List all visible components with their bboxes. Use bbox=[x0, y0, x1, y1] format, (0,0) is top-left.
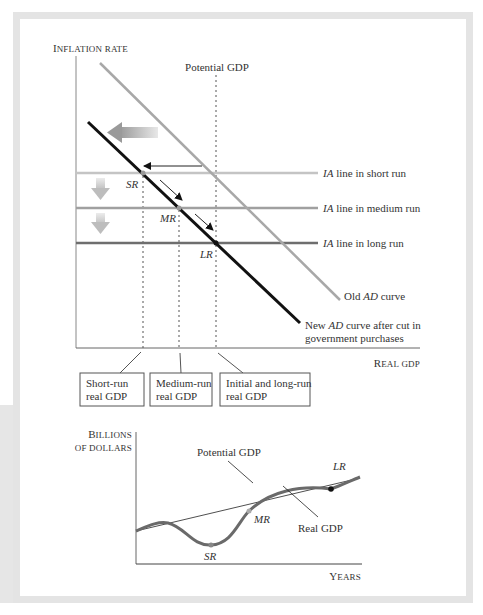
callout-line-mr bbox=[180, 353, 181, 373]
lr-label: LR bbox=[199, 248, 213, 260]
ia-long-label: IA line in long run bbox=[322, 237, 404, 249]
lr-label: LR bbox=[332, 460, 346, 472]
lr-point bbox=[328, 486, 334, 492]
arrow-sr-to-mr-icon bbox=[160, 180, 182, 200]
mr-label: MR bbox=[253, 513, 270, 525]
svg-text:real GDP: real GDP bbox=[226, 390, 267, 402]
potential-gdp-label: Potential GDP bbox=[197, 446, 261, 458]
old-ad-label: Old AD curve bbox=[344, 290, 405, 302]
mr-point bbox=[247, 509, 252, 514]
figure-svg: INFLATION RATE REAL GDP Potential GDP IA… bbox=[0, 0, 483, 615]
sr-point bbox=[141, 171, 146, 176]
x-axis-label: REAL GDP bbox=[374, 357, 420, 369]
ia-short-label: IA line in short run bbox=[322, 167, 407, 179]
svg-text:Initial and long-run: Initial and long-run bbox=[226, 377, 312, 389]
y-axis-label-line1: BILLIONS bbox=[88, 428, 132, 440]
y-axis-label: INFLATION RATE bbox=[53, 42, 128, 54]
down-arrow-icon-2 bbox=[91, 213, 110, 234]
new-ad-label: New AD curve after cut in bbox=[305, 319, 421, 331]
svg-text:Short-run: Short-run bbox=[86, 377, 129, 389]
callout-line-sr bbox=[120, 352, 141, 373]
sr-label: SR bbox=[204, 550, 217, 562]
real-gdp-label: Real GDP bbox=[298, 522, 343, 534]
bottom-chart: BILLIONS OF DOLLARS YEARS Potential GDP … bbox=[75, 428, 362, 582]
shift-left-arrow-icon bbox=[107, 122, 158, 143]
callout-line-lr bbox=[218, 353, 243, 373]
potential-gdp-label: Potential GDP bbox=[185, 61, 249, 73]
top-chart: INFLATION RATE REAL GDP Potential GDP IA… bbox=[53, 42, 421, 406]
lr-point bbox=[214, 241, 219, 246]
potential-gdp-pointer bbox=[228, 461, 253, 483]
svg-text:real GDP: real GDP bbox=[156, 390, 197, 402]
mr-label: MR bbox=[159, 212, 176, 224]
callout-box-short-run: Short-run real GDP bbox=[80, 373, 144, 406]
mr-point bbox=[177, 206, 182, 211]
x-axis-label: YEARS bbox=[329, 570, 361, 582]
new-ad-label-line2: government purchases bbox=[305, 332, 404, 344]
y-axis-label-line2: OF DOLLARS bbox=[75, 443, 132, 453]
callout-box-medium-run: Medium-run real GDP bbox=[150, 373, 212, 406]
sr-label: SR bbox=[126, 178, 139, 190]
real-gdp-pointer bbox=[283, 486, 318, 517]
new-ad-curve bbox=[88, 122, 300, 323]
down-arrow-icon-1 bbox=[91, 178, 110, 200]
svg-text:Medium-run: Medium-run bbox=[156, 377, 212, 389]
sr-point bbox=[209, 543, 214, 548]
ia-medium-label: IA line in medium run bbox=[322, 202, 421, 214]
svg-text:real GDP: real GDP bbox=[86, 390, 127, 402]
callout-box-long-run: Initial and long-run real GDP bbox=[220, 373, 312, 406]
